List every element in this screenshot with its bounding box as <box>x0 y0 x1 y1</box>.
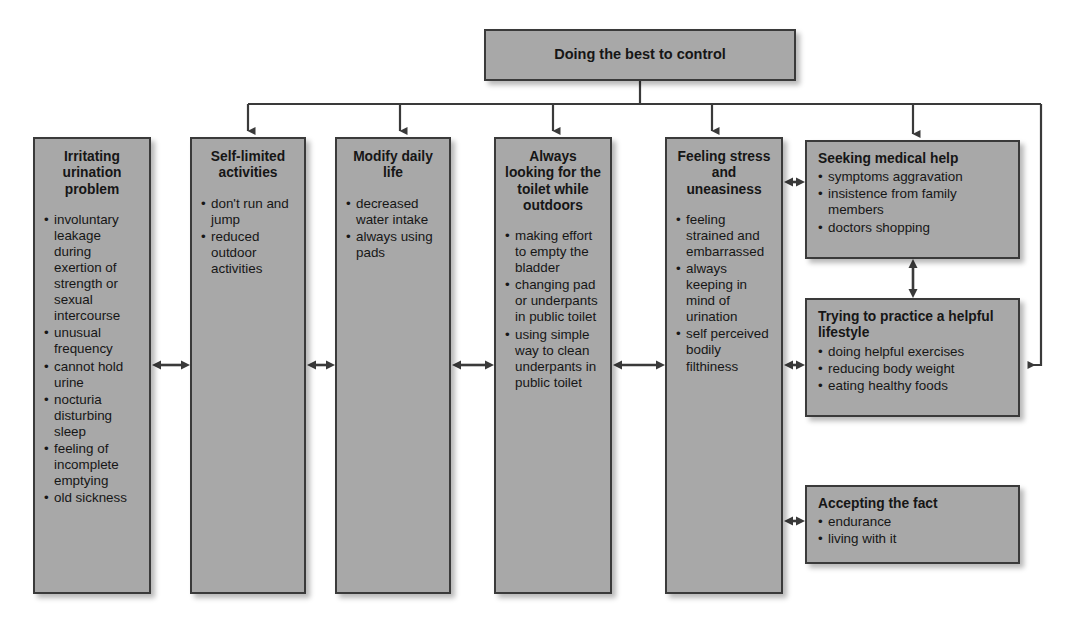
list-item: eating healthy foods <box>818 378 1008 394</box>
node-irritating-urination-problem[interactable]: Irritating urination problem involuntary… <box>33 137 151 594</box>
node-bullet-list: decreased water intake always using pads <box>346 196 440 261</box>
list-item: living with it <box>818 531 1008 547</box>
list-item: feeling strained and embarrassed <box>676 212 772 260</box>
list-item: involuntary leakage during exertion of s… <box>44 212 140 325</box>
node-title: Irritating urination problem <box>44 149 140 198</box>
link-col2-col3 <box>307 361 335 370</box>
node-title: Always looking for the toilet while outd… <box>505 149 601 214</box>
node-bullet-list: endurance living with it <box>818 514 1008 547</box>
node-title: Feeling stress and uneasiness <box>676 149 772 198</box>
list-item: decreased water intake <box>346 196 440 228</box>
list-item: making effort to empty the bladder <box>505 228 601 276</box>
list-item: old sickness <box>44 490 140 506</box>
list-item: self perceived bodily filthiness <box>676 326 772 374</box>
list-item: endurance <box>818 514 1008 530</box>
node-title: Seeking medical help <box>818 151 1008 167</box>
node-bullet-list: don't run and jump reduced outdoor activ… <box>201 196 295 277</box>
node-accepting-the-fact[interactable]: Accepting the fact endurance living with… <box>805 485 1020 564</box>
list-item: reducing body weight <box>818 361 1008 377</box>
node-title: Accepting the fact <box>818 496 1008 512</box>
wraparound-arrow-side-2 <box>1028 104 1041 365</box>
node-title: Modify daily life <box>346 149 440 182</box>
node-self-limited-activities[interactable]: Self-limited activities don't run and ju… <box>190 137 306 594</box>
list-item: always using pads <box>346 229 440 261</box>
link-col1-col2 <box>152 361 190 370</box>
node-always-looking-for-the-toilet[interactable]: Always looking for the toilet while outd… <box>494 137 612 594</box>
list-item: reduced outdoor activities <box>201 229 295 277</box>
link-col4-col5 <box>613 361 665 370</box>
list-item: don't run and jump <box>201 196 295 228</box>
node-bullet-list: involuntary leakage during exertion of s… <box>44 212 140 506</box>
list-item: always keeping in mind of urination <box>676 261 772 325</box>
link-col3-col4 <box>452 361 494 370</box>
root-title: Doing the best to control <box>554 46 726 63</box>
link-col5-side1 <box>784 178 805 187</box>
list-item: unusual frequency <box>44 325 140 357</box>
list-item: using simple way to clean underpants in … <box>505 327 601 391</box>
list-item: doing helpful exercises <box>818 344 1008 360</box>
node-modify-daily-life[interactable]: Modify daily life decreased water intake… <box>335 137 451 594</box>
list-item: cannot hold urine <box>44 359 140 391</box>
list-item: feeling of incomplete emptying <box>44 441 140 489</box>
node-doing-the-best-to-control[interactable]: Doing the best to control <box>484 29 796 81</box>
node-bullet-list: making effort to empty the bladder chang… <box>505 228 601 391</box>
node-feeling-stress-and-uneasiness[interactable]: Feeling stress and uneasiness feeling st… <box>665 137 783 594</box>
node-title: Self-limited activities <box>201 149 295 182</box>
link-side1-side2 <box>909 259 918 298</box>
link-col5-side3 <box>784 517 805 526</box>
list-item: insistence from family members <box>818 186 1008 218</box>
list-item: changing pad or underpants in public toi… <box>505 277 601 325</box>
node-bullet-list: symptoms aggravation insistence from fam… <box>818 169 1008 235</box>
node-bullet-list: feeling strained and embarrassed always … <box>676 212 772 375</box>
list-item: nocturia disturbing sleep <box>44 392 140 440</box>
node-trying-to-practice-a-helpful-lifestyle[interactable]: Trying to practice a helpful lifestyle d… <box>805 298 1020 417</box>
flowchart-diagram: Doing the best to control Irritating uri… <box>0 0 1072 628</box>
link-col5-side2 <box>784 361 805 370</box>
node-title: Trying to practice a helpful lifestyle <box>818 309 1008 342</box>
list-item: doctors shopping <box>818 220 1008 236</box>
node-seeking-medical-help[interactable]: Seeking medical help symptoms aggravatio… <box>805 140 1020 259</box>
node-bullet-list: doing helpful exercises reducing body we… <box>818 344 1008 394</box>
list-item: symptoms aggravation <box>818 169 1008 185</box>
